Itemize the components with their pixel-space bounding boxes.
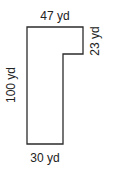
right-step-dimension-label: 23 yd: [88, 26, 102, 55]
l-shape-diagram: 47 yd 23 yd 100 yd 30 yd: [0, 0, 137, 170]
left-dimension-label: 100 yd: [4, 67, 18, 103]
l-shape-outline: [27, 27, 83, 144]
bottom-dimension-label: 30 yd: [30, 151, 59, 165]
top-dimension-label: 47 yd: [40, 9, 69, 23]
